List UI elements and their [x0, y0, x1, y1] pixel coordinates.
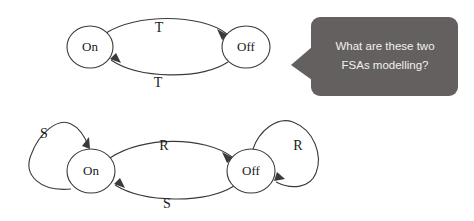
bottom-edge-on-to-off-path [110, 141, 232, 158]
top-state-off[interactable]: Off [222, 26, 270, 68]
bottom-state-on[interactable]: On [67, 149, 115, 193]
speech-bubble-tail [291, 47, 312, 80]
top-transition-off-to-on: T [110, 53, 228, 90]
top-transition-on-to-off: T [106, 19, 228, 41]
bottom-state-on-label: On [83, 163, 99, 178]
top-edge-label-off-to-on: T [154, 75, 163, 90]
bottom-edge-label-off-self-loop: R [293, 138, 303, 153]
top-edge-label-on-to-off: T [155, 20, 164, 35]
bottom-edge-off-to-on-arrowhead [114, 178, 125, 188]
bottom-edge-label-on-self-loop: S [40, 126, 48, 141]
bottom-edge-label-on-to-off: R [159, 138, 169, 153]
speech-bubble-body [311, 17, 458, 96]
bottom-fsa-group: S R R S On Off [29, 121, 318, 212]
bottom-state-off-label: Off [242, 163, 260, 178]
bottom-transition-on-to-off: R [110, 138, 233, 163]
bottom-edge-label-off-to-on: S [163, 196, 171, 211]
bottom-edge-off-to-on-path [115, 185, 234, 199]
bottom-edge-on-self-loop-arrowhead [82, 137, 90, 149]
speech-bubble: What are these two FSAs modelling? [291, 17, 458, 96]
bottom-state-off[interactable]: Off [227, 149, 275, 193]
top-state-on[interactable]: On [67, 26, 113, 68]
speech-bubble-line-1: What are these two [335, 40, 434, 52]
speech-bubble-line-2: FSAs modelling? [342, 59, 429, 71]
top-edge-on-to-off-path [106, 19, 227, 35]
bottom-transition-off-to-on: S [114, 178, 234, 211]
top-edge-off-to-on-path [111, 60, 228, 75]
fsa-diagram-canvas: T T On Off S R [0, 0, 474, 221]
top-state-on-label: On [82, 39, 98, 54]
bottom-edge-off-self-loop-arrowhead [274, 172, 285, 181]
top-fsa-group: T T On Off [67, 19, 270, 91]
top-state-off-label: Off [237, 39, 255, 54]
